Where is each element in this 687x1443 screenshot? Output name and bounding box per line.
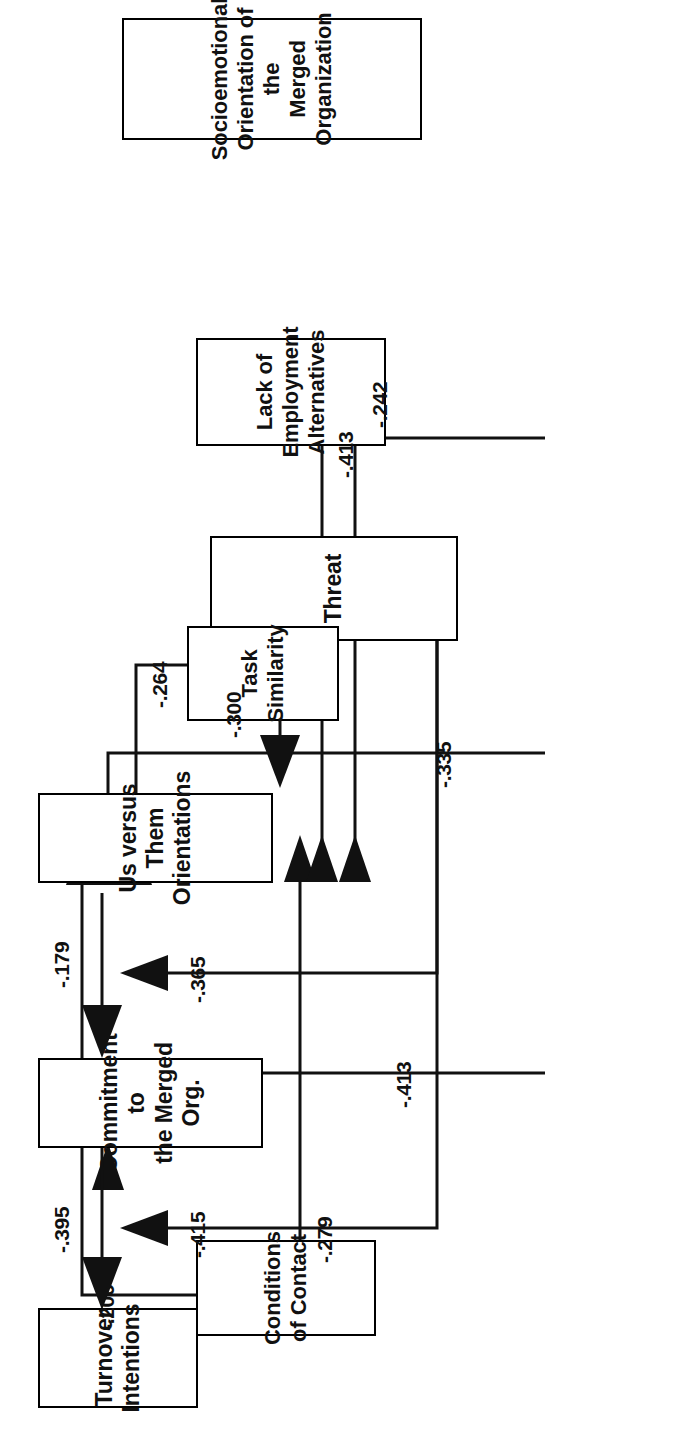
coef-alternatives-to-threat: -.242	[368, 382, 392, 428]
node-lack-of-employment-alternatives[interactable]: Lack of Employment Alternatives	[196, 338, 386, 446]
node-contact-line2: of Contact	[286, 1227, 312, 1349]
coef-usvsthem-to-commitment: -.179	[50, 942, 74, 988]
node-alternatives-line1: Lack of	[252, 322, 278, 461]
coef-commitment-to-turnover: -.395	[50, 1207, 74, 1253]
node-commitment-merged-org[interactable]: Commitment to the Merged Org.	[38, 1058, 263, 1148]
figure-rotation-wrapper: Turnover Intentions Commitment to the Me…	[0, 0, 687, 1443]
coef-socio-to-commitment: -.413	[392, 1062, 416, 1108]
node-usvsthem-line2: Orientations	[169, 767, 196, 909]
coef-threat-to-usvsthem: -.300	[222, 692, 246, 738]
node-task-similarity[interactable]: Task Similarity	[187, 626, 339, 721]
node-alternatives-line3: Alternatives	[304, 322, 330, 461]
edge-layer	[0, 0, 687, 1443]
node-commitment-line2: the Merged Org.	[151, 1029, 205, 1177]
node-turnover-line2: Intentions	[118, 1300, 145, 1417]
coef-contact-to-threat: -.279	[313, 1217, 337, 1263]
coef-threat-to-turnover: -.415	[186, 1212, 210, 1258]
node-socio-line1: Socioemotional	[207, 0, 233, 164]
coef-socio-to-usvsthem: -.335	[432, 742, 456, 788]
edge-socio-to-threat	[306, 438, 545, 882]
node-commitment-line1: Commitment to	[96, 1029, 150, 1177]
coef-contact-to-usvsthem: -.206	[95, 1285, 119, 1331]
path-diagram-canvas: Turnover Intentions Commitment to the Me…	[0, 0, 687, 1443]
edge-contact-to-threat	[196, 835, 316, 1268]
node-similarity-line2: Similarity	[263, 620, 289, 726]
node-usvsthem-line1: Us versus Them	[115, 767, 169, 909]
coef-similarity-to-usvsthem: -.264	[148, 662, 172, 708]
node-us-versus-them-orientations[interactable]: Us versus Them Orientations	[38, 793, 273, 883]
coef-threat-to-commitment: -.365	[186, 957, 210, 1003]
node-socioemotional-orientation[interactable]: Socioemotional Orientation of the Merged…	[122, 18, 422, 140]
node-conditions-of-contact[interactable]: Conditions of Contact	[196, 1240, 376, 1336]
node-contact-line1: Conditions	[260, 1227, 286, 1349]
node-alternatives-line2: Employment	[278, 322, 304, 461]
node-threat-line1: Threat	[320, 550, 347, 628]
node-socio-line3: Merged Organization	[285, 0, 337, 164]
node-socio-line2: Orientation of the	[233, 0, 285, 164]
coef-socio-to-threat: -.413	[334, 432, 358, 478]
